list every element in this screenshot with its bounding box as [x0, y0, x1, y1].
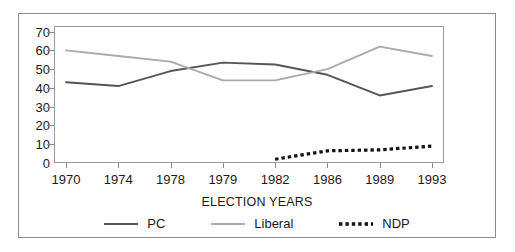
y-tick-label: 20 — [10, 119, 50, 132]
chart-figure: 010203040506070 197019741978197919821986… — [18, 13, 496, 238]
x-tick-mark — [380, 163, 381, 168]
x-tick-mark — [171, 163, 172, 168]
x-tick-label: 1993 — [418, 173, 447, 186]
y-tick-mark — [47, 144, 54, 145]
x-tick-mark — [432, 163, 433, 168]
x-tick-label: 1982 — [261, 173, 290, 186]
line-swatch-dotted-black-icon — [339, 219, 373, 229]
legend-label: NDP — [382, 217, 409, 230]
legend-item-liberal[interactable]: Liberal — [211, 217, 293, 230]
y-tick-label: 30 — [10, 100, 50, 113]
x-tick-mark — [223, 163, 224, 168]
x-axis-title: ELECTION YEARS — [19, 195, 495, 209]
y-tick-label: 0 — [10, 157, 50, 170]
y-tick-mark — [47, 69, 54, 70]
legend-label: Liberal — [254, 217, 293, 230]
legend-item-ndp[interactable]: NDP — [339, 217, 409, 230]
series-line-pc — [66, 63, 432, 96]
x-tick-mark — [118, 163, 119, 168]
line-swatch-solid-light-icon — [211, 219, 245, 229]
x-tick-label: 1986 — [313, 173, 342, 186]
y-tick-label: 50 — [10, 63, 50, 76]
x-tick-label: 1974 — [104, 173, 133, 186]
line-swatch-solid-dark-icon — [104, 219, 138, 229]
y-tick-label: 40 — [10, 81, 50, 94]
x-tick-mark — [327, 163, 328, 168]
chart-plot-lines — [54, 26, 444, 163]
x-tick-mark — [66, 163, 67, 168]
x-tick-label: 1989 — [365, 173, 394, 186]
series-line-ndp — [275, 146, 432, 159]
y-tick-label: 60 — [10, 44, 50, 57]
x-tick-mark — [275, 163, 276, 168]
y-tick-mark — [47, 125, 54, 126]
plot-area: 010203040506070 197019741978197919821986… — [54, 26, 444, 176]
legend-item-pc[interactable]: PC — [104, 217, 165, 230]
x-tick-label: 1970 — [52, 173, 81, 186]
y-tick-mark — [47, 107, 54, 108]
y-tick-label: 10 — [10, 138, 50, 151]
legend-label: PC — [147, 217, 165, 230]
y-tick-mark — [47, 50, 54, 51]
x-tick-label: 1978 — [156, 173, 185, 186]
y-tick-mark — [47, 32, 54, 33]
y-tick-label: 70 — [10, 25, 50, 38]
chart-legend: PCLiberalNDP — [19, 217, 495, 230]
y-tick-mark — [47, 88, 54, 89]
x-tick-label: 1979 — [208, 173, 237, 186]
